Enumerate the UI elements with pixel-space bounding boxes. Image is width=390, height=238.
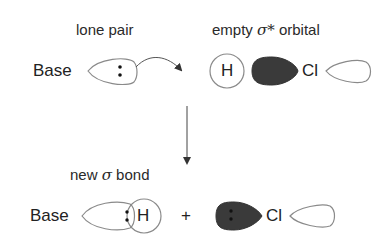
plus-sign: + (181, 206, 191, 226)
chloride-back-lobe (290, 205, 335, 227)
sigma-star-filled-lobe (252, 57, 298, 85)
sigma-star-symbol: σ* (257, 21, 275, 39)
new-text: new (70, 166, 102, 183)
orbital-diagram-graphics (0, 0, 390, 238)
product-chlorine-label: Cl (266, 206, 282, 226)
product-base-label: Base (30, 206, 69, 226)
empty-sigma-star-label: empty σ* orbital (212, 21, 320, 39)
orbital-text: orbital (275, 21, 320, 38)
chloride-filled-lobe (216, 202, 262, 230)
lone-pair-label: lone pair (76, 21, 134, 38)
reactant-hydrogen-label: H (221, 61, 233, 81)
reactant-chlorine-label: Cl (302, 61, 318, 81)
base-lone-pair-orbital (88, 59, 137, 85)
empty-text: empty (212, 21, 257, 38)
bond-text: bond (112, 166, 150, 183)
sigma-symbol: σ (102, 166, 112, 184)
product-hydrogen-label: H (137, 206, 149, 226)
new-sigma-bond-label: new σ bond (70, 166, 149, 184)
curved-arrow (136, 57, 181, 70)
lone-pair-text: lone pair (76, 21, 134, 38)
reactant-base-label: Base (33, 61, 72, 81)
cl-back-lobe (326, 60, 371, 82)
